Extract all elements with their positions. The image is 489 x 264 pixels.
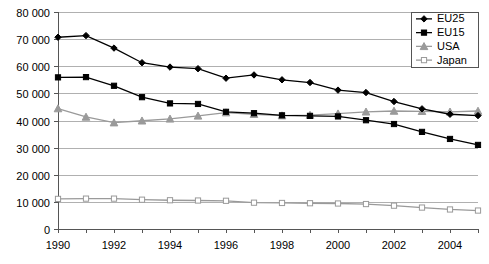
data-point (279, 113, 284, 118)
data-point (55, 75, 60, 80)
data-point (307, 113, 312, 118)
y-axis-tick-label: 20 000 (16, 170, 50, 182)
series-japan (55, 196, 480, 213)
data-point (55, 196, 60, 201)
data-point (475, 208, 480, 213)
data-point (363, 201, 368, 206)
y-axis-tick-label: 40 000 (16, 116, 50, 128)
data-point (421, 30, 426, 35)
data-point (391, 98, 397, 104)
data-point (419, 205, 424, 210)
data-point (83, 75, 88, 80)
x-axis-tick-label: 2002 (382, 239, 406, 251)
y-axis-tick-label: 50 000 (16, 88, 50, 100)
data-point (419, 129, 424, 134)
legend-label: USA (437, 40, 460, 52)
data-point (447, 207, 452, 212)
data-point (83, 32, 89, 38)
legend-label: Japan (437, 54, 467, 66)
series-line (58, 199, 478, 211)
y-axis-tick-label: 80 000 (16, 7, 50, 19)
data-point (251, 72, 257, 78)
data-point (223, 75, 229, 81)
series-line (58, 109, 478, 123)
data-point (391, 203, 396, 208)
chart-legend: EU25EU15USAJapan (412, 12, 479, 67)
data-point (335, 87, 341, 93)
data-point (167, 64, 173, 70)
data-point (223, 198, 228, 203)
x-axis-tick-labels: 19901992199419961998200020022004 (46, 239, 462, 251)
data-point (167, 101, 172, 106)
chart-canvas: 010 00020 00030 00040 00050 00060 00070 … (0, 0, 489, 264)
data-point (195, 198, 200, 203)
data-point (223, 109, 228, 114)
legend-label: EU25 (437, 12, 465, 24)
y-axis-tick-label: 10 000 (16, 197, 50, 209)
data-point (251, 111, 256, 116)
data-point (307, 201, 312, 206)
data-point (421, 58, 426, 63)
data-point (391, 121, 396, 126)
y-axis-tick-labels: 010 00020 00030 00040 00050 00060 00070 … (16, 7, 50, 236)
data-point (167, 198, 172, 203)
data-point (279, 77, 285, 83)
data-point (307, 79, 313, 85)
y-axis-tick-label: 0 (44, 224, 50, 236)
y-axis-tick-label: 30 000 (16, 143, 50, 155)
data-point (447, 136, 452, 141)
data-point (111, 45, 117, 51)
data-point (54, 105, 62, 112)
data-point (111, 196, 116, 201)
y-axis-tick-label: 70 000 (16, 34, 50, 46)
data-point (195, 101, 200, 106)
legend-label: EU15 (437, 26, 465, 38)
data-point (139, 95, 144, 100)
data-point (111, 83, 116, 88)
data-point (139, 197, 144, 202)
x-axis-tick-label: 2000 (326, 239, 350, 251)
data-point (139, 60, 145, 66)
data-point (83, 196, 88, 201)
data-point (475, 142, 480, 147)
x-axis-tick-label: 1998 (270, 239, 294, 251)
x-axis-tick-label: 2004 (438, 239, 462, 251)
line-chart: 010 00020 00030 00040 00050 00060 00070 … (0, 0, 489, 264)
x-axis-tick-label: 1996 (214, 239, 238, 251)
data-point (279, 200, 284, 205)
data-point (251, 200, 256, 205)
data-point (335, 201, 340, 206)
data-point (363, 89, 369, 95)
data-point (363, 118, 368, 123)
x-axis-tick-label: 1990 (46, 239, 70, 251)
x-axis-tick-label: 1992 (102, 239, 126, 251)
x-axis-tick-label: 1994 (158, 239, 182, 251)
y-axis-tick-label: 60 000 (16, 61, 50, 73)
data-point (335, 114, 340, 119)
